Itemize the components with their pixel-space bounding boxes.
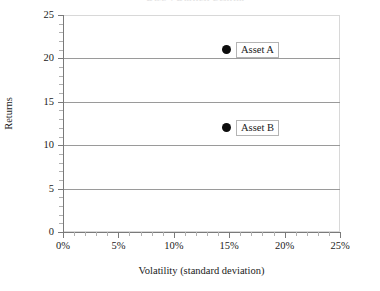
x-minor-tick	[163, 232, 164, 236]
y-minor-tick	[59, 41, 63, 42]
gridline-y-15	[63, 102, 340, 103]
x-tick-label-10pct: 10%	[149, 240, 199, 251]
data-label-asset-a[interactable]: Asset A	[236, 42, 279, 58]
x-tick-label-20pct: 20%	[260, 240, 310, 251]
x-minor-tick	[240, 232, 241, 236]
x-tick-0	[63, 232, 64, 238]
y-minor-tick	[59, 137, 63, 138]
y-minor-tick	[59, 119, 63, 120]
x-tick-10	[174, 232, 175, 238]
x-minor-tick	[141, 232, 142, 236]
y-minor-tick	[59, 32, 63, 33]
y-minor-tick	[59, 171, 63, 172]
y-minor-tick	[59, 67, 63, 68]
x-tick-25	[340, 232, 341, 238]
y-minor-tick	[59, 50, 63, 51]
x-minor-tick	[107, 232, 108, 236]
y-tick-label-20: 20	[6, 53, 54, 64]
x-axis-line	[63, 232, 341, 233]
y-minor-tick	[59, 163, 63, 164]
y-minor-tick	[59, 197, 63, 198]
x-axis-title: Volatility (standard deviation)	[63, 265, 340, 276]
x-tick-15	[229, 232, 230, 238]
x-minor-tick	[318, 232, 319, 236]
x-tick-label-0pct: 0%	[38, 240, 88, 251]
y-tick-label-5: 5	[6, 184, 54, 195]
y-minor-tick	[59, 24, 63, 25]
y-minor-tick	[59, 154, 63, 155]
y-tick-label-0: 0	[6, 227, 54, 238]
x-tick-label-15pct: 15%	[204, 240, 254, 251]
y-minor-tick	[59, 84, 63, 85]
x-minor-tick	[196, 232, 197, 236]
gridline-y-20	[63, 58, 340, 59]
data-label-asset-b[interactable]: Asset B	[236, 120, 279, 136]
y-axis-line	[63, 15, 64, 233]
y-minor-tick	[59, 206, 63, 207]
y-minor-tick	[59, 180, 63, 181]
y-tick-15	[58, 102, 64, 103]
x-minor-tick	[296, 232, 297, 236]
plot-area	[63, 15, 340, 232]
x-tick-label-5pct: 5%	[93, 240, 143, 251]
x-minor-tick	[85, 232, 86, 236]
y-tick-10	[58, 145, 64, 146]
x-minor-tick	[274, 232, 275, 236]
x-minor-tick	[262, 232, 263, 236]
y-tick-5	[58, 189, 64, 190]
x-minor-tick	[307, 232, 308, 236]
x-minor-tick	[251, 232, 252, 236]
scatter-chart: 0510152025 0%5%10%15%20%25% Asset AAsset…	[0, 0, 380, 291]
y-minor-tick	[59, 223, 63, 224]
x-minor-tick	[329, 232, 330, 236]
x-minor-tick	[96, 232, 97, 236]
x-minor-tick	[74, 232, 75, 236]
x-minor-tick	[129, 232, 130, 236]
x-minor-tick	[152, 232, 153, 236]
y-minor-tick	[59, 93, 63, 94]
gridline-y-5	[63, 189, 340, 190]
x-tick-20	[285, 232, 286, 238]
x-minor-tick	[218, 232, 219, 236]
x-tick-label-25pct: 25%	[315, 240, 365, 251]
y-minor-tick	[59, 128, 63, 129]
y-tick-label-25: 25	[6, 10, 54, 21]
y-tick-20	[58, 58, 64, 59]
y-minor-tick	[59, 76, 63, 77]
gridline-y-10	[63, 145, 340, 146]
x-minor-tick	[185, 232, 186, 236]
x-tick-5	[118, 232, 119, 238]
x-minor-tick	[207, 232, 208, 236]
y-tick-25	[58, 15, 64, 16]
y-axis-title: Returns	[3, 84, 14, 144]
y-minor-tick	[59, 215, 63, 216]
y-minor-tick	[59, 110, 63, 111]
